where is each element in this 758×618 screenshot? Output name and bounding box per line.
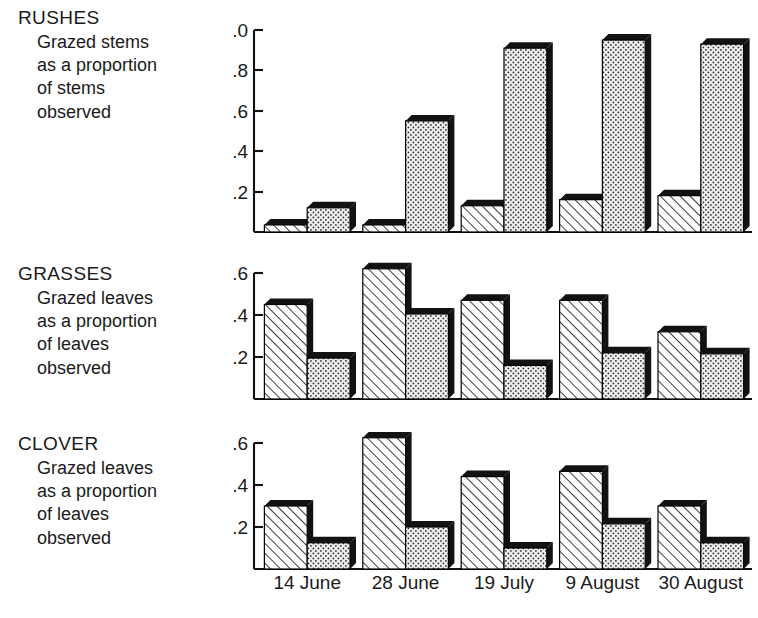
bar-rushes-hatched bbox=[461, 200, 510, 232]
bar-group-rushes bbox=[264, 34, 749, 232]
bar-clover-hatched bbox=[363, 432, 412, 569]
panel-subtitle-line: Grazed leaves bbox=[37, 457, 218, 480]
bar-rushes-dotted bbox=[602, 34, 651, 232]
bar-clover-hatched bbox=[461, 471, 510, 569]
x-tick-label: 14 June bbox=[258, 572, 356, 594]
panel-subtitle-line: as a proportion bbox=[37, 54, 218, 77]
bar-rushes-hatched bbox=[560, 194, 609, 232]
bar-grasses-dotted bbox=[406, 308, 455, 399]
bar-grasses-hatched bbox=[560, 294, 609, 399]
panel-subtitle-line: as a proportion bbox=[37, 310, 218, 333]
ytick-label: 0.4 bbox=[232, 475, 248, 496]
ytick-label: 0.6 bbox=[232, 101, 248, 122]
bar-grasses-dotted bbox=[701, 348, 750, 399]
bar-grasses-dotted bbox=[504, 359, 553, 399]
x-tick-label: 19 July bbox=[455, 572, 553, 594]
ytick-label: 0.6 bbox=[232, 263, 248, 284]
ytick-label: 0.8 bbox=[232, 60, 248, 81]
bar-clover-hatched bbox=[658, 500, 707, 569]
bar-clover-hatched bbox=[264, 500, 313, 569]
y-axis-rushes: 1.0 0.8 0.6 0.4 0.2 bbox=[232, 20, 263, 232]
ytick-label: 0.6 bbox=[232, 433, 248, 454]
panel-subtitle-grasses: Grazed leaves as a proportion of leaves … bbox=[18, 287, 218, 381]
panel-subtitle-line: Grazed stems bbox=[37, 31, 218, 54]
panel-subtitle-line: as a proportion bbox=[37, 480, 218, 503]
bar-rushes-dotted bbox=[701, 38, 750, 232]
bar-grasses-hatched bbox=[658, 326, 707, 399]
bar-clover-dotted bbox=[406, 521, 455, 569]
panel-title-grasses: GRASSES bbox=[18, 262, 218, 287]
panel-subtitle-line: Grazed leaves bbox=[37, 287, 218, 310]
bar-grasses-hatched bbox=[264, 299, 313, 400]
ytick-label: 0.2 bbox=[232, 182, 248, 203]
bar-group-clover bbox=[264, 432, 749, 569]
chart-panel-grasses: 0.6 0.4 0.2 bbox=[232, 262, 758, 427]
figure-three-panel-grazing-bar-chart: RUSHES Grazed stems as a proportion of s… bbox=[0, 0, 758, 618]
panel-caption-grasses: GRASSES Grazed leaves as a proportion of… bbox=[18, 262, 218, 380]
panel-subtitle-rushes: Grazed stems as a proportion of stems ob… bbox=[18, 31, 218, 125]
ytick-label: 1.0 bbox=[232, 20, 248, 41]
x-tick-label: 9 August bbox=[553, 572, 651, 594]
ytick-label: 0.2 bbox=[232, 347, 248, 368]
ytick-label: 0.2 bbox=[232, 517, 248, 538]
bar-clover-dotted bbox=[602, 518, 651, 569]
bar-group-grasses bbox=[264, 263, 749, 399]
bar-grasses-dotted bbox=[307, 352, 356, 399]
chart-panel-rushes: 1.0 0.8 0.6 0.4 0.2 bbox=[232, 6, 758, 256]
ytick-label: 0.4 bbox=[232, 305, 248, 326]
bar-clover-dotted bbox=[701, 537, 750, 569]
bar-rushes-hatched bbox=[658, 190, 707, 232]
panel-caption-clover: CLOVER Grazed leaves as a proportion of … bbox=[18, 432, 218, 550]
bar-rushes-hatched bbox=[363, 219, 412, 232]
bar-grasses-dotted bbox=[602, 347, 651, 399]
panel-title-rushes: RUSHES bbox=[18, 6, 218, 31]
panel-subtitle-clover: Grazed leaves as a proportion of leaves … bbox=[18, 457, 218, 551]
bar-clover-dotted bbox=[504, 542, 553, 569]
y-axis-clover: 0.6 0.4 0.2 bbox=[232, 433, 263, 569]
bar-grasses-hatched bbox=[461, 294, 510, 399]
bar-rushes-hatched bbox=[264, 219, 313, 232]
panel-subtitle-line: of leaves bbox=[37, 333, 218, 356]
x-tick-label: 28 June bbox=[356, 572, 454, 594]
bar-rushes-dotted bbox=[307, 202, 356, 232]
panel-caption-rushes: RUSHES Grazed stems as a proportion of s… bbox=[18, 6, 218, 124]
chart-panel-clover: 0.6 0.4 0.2 bbox=[232, 432, 758, 577]
bar-rushes-dotted bbox=[406, 115, 455, 232]
bar-grasses-hatched bbox=[363, 263, 412, 399]
panel-title-clover: CLOVER bbox=[18, 432, 218, 457]
panel-subtitle-line: observed bbox=[37, 101, 218, 124]
ytick-label: 0.4 bbox=[232, 141, 248, 162]
panel-subtitle-line: observed bbox=[37, 527, 218, 550]
panel-subtitle-line: of stems bbox=[37, 77, 218, 100]
bar-clover-dotted bbox=[307, 537, 356, 569]
bar-clover-hatched bbox=[560, 465, 609, 569]
panel-subtitle-line: observed bbox=[37, 357, 218, 380]
y-axis-grasses: 0.6 0.4 0.2 bbox=[232, 263, 263, 399]
bar-rushes-dotted bbox=[504, 42, 553, 232]
panel-subtitle-line: of leaves bbox=[37, 503, 218, 526]
x-axis-category-labels: 14 June28 June19 July9 August30 August bbox=[232, 572, 752, 600]
x-tick-label: 30 August bbox=[652, 572, 750, 594]
